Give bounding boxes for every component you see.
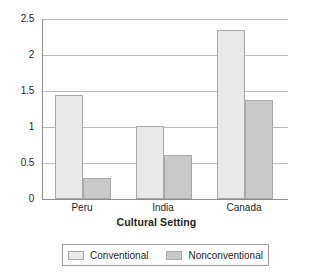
- x-tick-label-canada: Canada: [226, 202, 261, 214]
- x-tick-label-india: India: [152, 202, 174, 214]
- legend-item-conventional: Conventional: [68, 250, 148, 261]
- legend-swatch-conventional: [68, 251, 84, 260]
- plot-wrapper: 2.5 2 1.5 1 0.5 0 Peru India: [0, 0, 313, 210]
- bar-peru-nonconventional: [83, 178, 111, 199]
- y-tick-label-2: 1: [29, 122, 34, 132]
- x-tick-label-peru: Peru: [71, 202, 92, 214]
- chart-legend: Conventional Nonconventional: [62, 244, 269, 266]
- bar-peru-conventional: [55, 95, 83, 199]
- bar-canada-nonconventional: [245, 100, 273, 199]
- y-axis-tick-labels: 2.5 2 1.5 1 0.5 0: [0, 0, 38, 210]
- legend-swatch-nonconventional: [166, 251, 182, 260]
- legend-label-conventional: Conventional: [90, 250, 148, 261]
- plot-area: [42, 19, 288, 200]
- x-axis-title: Cultural Setting: [0, 216, 313, 228]
- legend-item-nonconventional: Nonconventional: [166, 250, 263, 261]
- y-tick-label-0: 0: [29, 194, 34, 204]
- y-tick-label-1: 0.5: [21, 158, 34, 168]
- legend-label-nonconventional: Nonconventional: [188, 250, 263, 261]
- bars-layer: [43, 19, 288, 199]
- y-tick-label-5: 2.5: [21, 14, 34, 24]
- y-tick-label-4: 2: [29, 50, 34, 60]
- y-tick-label-3: 1.5: [21, 86, 34, 96]
- bar-india-conventional: [136, 126, 164, 199]
- bar-india-nonconventional: [164, 155, 192, 199]
- bar-canada-conventional: [217, 30, 245, 199]
- bar-chart: 2.5 2 1.5 1 0.5 0 Peru India: [0, 0, 313, 276]
